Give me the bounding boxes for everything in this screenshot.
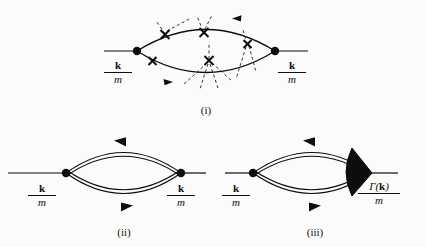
panel-iii-upper-arrow xyxy=(303,137,315,146)
panel-iii-gamma-vertex-wedge xyxy=(346,148,372,196)
panel-i-group xyxy=(104,15,308,89)
diagram-canvas xyxy=(0,0,426,247)
panel-i-left-vertex-dot xyxy=(133,47,141,55)
panel-ii-upper-propagator-inner xyxy=(67,156,180,175)
figure-root: k m k m (i) k m k m (ii) k m Γ(k) m (iii… xyxy=(0,0,426,247)
panel-iii-lower-arrow xyxy=(309,202,321,211)
panel-ii-lower-propagator-inner xyxy=(67,171,180,190)
panel-ii-group xyxy=(8,137,206,211)
panel-i-upper-arrow xyxy=(232,15,242,21)
panel-iii-group xyxy=(225,137,398,211)
panel-ii-left-vertex-dot xyxy=(62,169,70,177)
panel-ii-right-vertex-dot xyxy=(177,169,185,177)
panel-i-impurity-lines xyxy=(152,15,256,89)
panel-ii-lower-propagator-outer xyxy=(66,173,181,194)
panel-i-upper-propagator xyxy=(137,30,275,52)
panel-ii-upper-arrow xyxy=(114,137,126,146)
panel-i-lower-arrow xyxy=(164,79,174,85)
panel-ii-upper-propagator-outer xyxy=(66,153,181,174)
panel-ii-lower-arrow xyxy=(121,202,133,211)
panel-i-right-vertex-dot xyxy=(271,47,279,55)
panel-iii-left-vertex-dot xyxy=(249,169,257,177)
